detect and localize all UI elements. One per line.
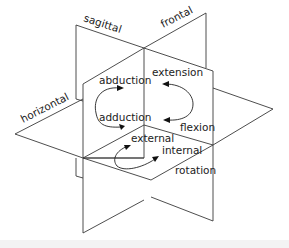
label-frontal: frontal (158, 3, 194, 29)
arrowhead-icon (162, 81, 169, 87)
label-flexion: flexion (180, 121, 215, 133)
label-internal: internal (162, 144, 202, 156)
arrowhead-icon (124, 145, 131, 150)
label-extension: extension (152, 66, 203, 78)
label-rotation: rotation (175, 164, 216, 176)
arrowhead-icon (163, 117, 170, 123)
rotation-arrow (115, 146, 155, 169)
extension-flexion-arrow (165, 84, 193, 120)
sagittal-plane (76, 25, 144, 101)
label-sagittal: sagittal (82, 11, 123, 34)
label-adduction: adduction (99, 111, 151, 123)
label-horizontal: horizontal (18, 90, 70, 124)
label-abduction: abduction (99, 74, 151, 86)
footer-band (0, 240, 289, 248)
label-external: external (131, 132, 174, 144)
planes-diagram: sagittal frontal horizontal abduction ad… (0, 0, 289, 248)
arrowhead-icon (152, 156, 159, 162)
